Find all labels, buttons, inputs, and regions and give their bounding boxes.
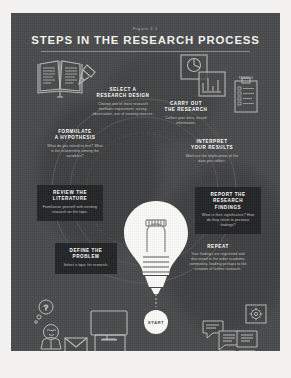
clipboard-survey-icon: RESEARCH bbox=[231, 76, 265, 116]
svg-text:?: ? bbox=[44, 303, 49, 312]
step-body: Collect your data, record information. bbox=[159, 116, 213, 126]
step-heading: INTERPRET YOUR RESULTS bbox=[185, 139, 239, 152]
clipboard-label: RESEARCH bbox=[239, 76, 254, 80]
lightbulb-icon bbox=[118, 199, 194, 307]
step-heading: REPORT THE RESEARCH FINDINGS bbox=[200, 192, 256, 211]
step-heading: CARRY OUT THE RESEARCH bbox=[159, 101, 213, 114]
step-heading: REPEAT bbox=[187, 244, 249, 250]
step-report-the-research-findings[interactable]: REPORT THE RESEARCH FINDINGS What is the… bbox=[195, 187, 261, 234]
step-body: Familiarize yourself with existing resea… bbox=[42, 205, 98, 215]
poster-panel: Figure 2.1 STEPS IN THE RESEARCH PROCESS bbox=[11, 13, 280, 351]
step-body: Choose one or more research methods: exp… bbox=[91, 102, 155, 117]
step-body: What do you intend to test? What is the … bbox=[47, 144, 103, 159]
infographic-page: Figure 2.1 STEPS IN THE RESEARCH PROCESS bbox=[0, 0, 291, 378]
step-heading: DEFINE THE PROBLEM bbox=[60, 248, 112, 261]
computer-monitor-icon bbox=[93, 333, 129, 351]
open-book-icon bbox=[37, 55, 99, 101]
step-heading: REVIEW THE LITERATURE bbox=[42, 190, 98, 203]
step-body: Your findings are registered and discuss… bbox=[187, 252, 249, 272]
start-button[interactable]: START bbox=[144, 310, 168, 334]
step-repeat[interactable]: REPEAT Your findings are registered and … bbox=[187, 244, 249, 272]
step-heading: SELECT A RESEARCH DESIGN bbox=[91, 87, 155, 100]
step-body: Select a topic for research. bbox=[60, 263, 112, 268]
step-select-a-research-design[interactable]: SELECT A RESEARCH DESIGN Choose one or m… bbox=[91, 87, 155, 117]
step-carry-out-the-research[interactable]: CARRY OUT THE RESEARCH Collect your data… bbox=[159, 101, 213, 126]
step-body: What is their significance? How do they … bbox=[200, 213, 256, 228]
step-review-the-literature[interactable]: REVIEW THE LITERATURE Familiarize yourse… bbox=[37, 185, 103, 221]
step-heading: FORMULATE A HYPOTHESIS bbox=[47, 129, 103, 142]
envelope-icon bbox=[63, 335, 91, 351]
step-define-the-problem[interactable]: DEFINE THE PROBLEM Select a topic for re… bbox=[55, 243, 117, 274]
step-formulate-a-hypothesis[interactable]: FORMULATE A HYPOTHESIS What do you inten… bbox=[47, 129, 103, 159]
documents-icon bbox=[217, 347, 261, 351]
pencil-icon bbox=[79, 65, 95, 84]
step-interpret-your-results[interactable]: INTERPRET YOUR RESULTS Work out the impl… bbox=[185, 139, 239, 164]
gear-icon bbox=[244, 303, 270, 327]
step-body: Work out the implications of the data yo… bbox=[185, 154, 239, 164]
